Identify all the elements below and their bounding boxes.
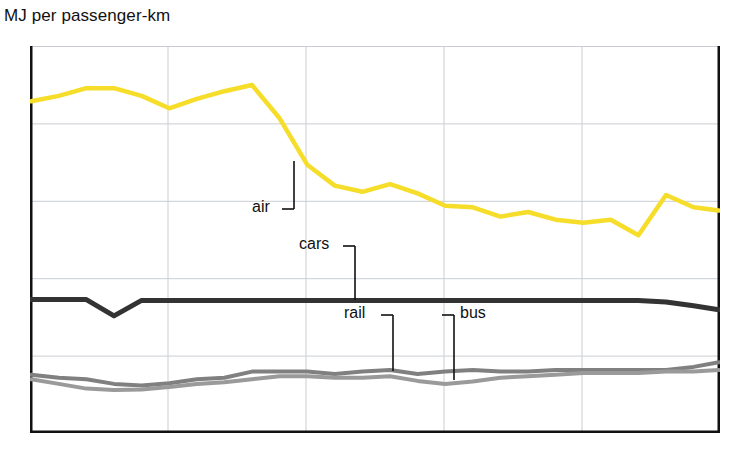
series-label-cars: cars — [299, 235, 329, 253]
series-line-cars — [31, 300, 719, 316]
series-label-air: air — [252, 198, 270, 216]
chart-svg — [30, 46, 720, 433]
energy-intensity-line-chart: MJ per passenger-km — [0, 0, 749, 466]
plot-area: 5 4 3 2 1 0 1970 1975 1980 1985 1990 199… — [30, 46, 720, 433]
annotation-leaders — [282, 161, 454, 380]
series-label-rail: rail — [344, 304, 365, 322]
series-line-bus — [31, 370, 719, 390]
y-axis-title: MJ per passenger-km — [4, 6, 170, 26]
series-line-air — [31, 85, 719, 235]
series-label-bus: bus — [460, 304, 486, 322]
